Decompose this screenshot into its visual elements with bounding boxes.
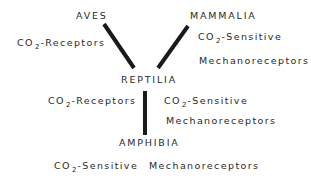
lineage-lines — [0, 0, 311, 179]
label-reptilia-mechanoreceptors: Mechanoreceptors — [166, 116, 276, 126]
node-aves: AVES — [76, 11, 108, 21]
node-reptilia: REPTILIA — [121, 75, 177, 85]
edge-aves-reptilia — [104, 24, 134, 68]
label-aves-co2-receptors: CO2-Receptors — [17, 38, 105, 51]
node-amphibia: AMPHIBIA — [119, 138, 180, 148]
edge-mammalia-reptilia — [158, 26, 188, 68]
label-mammalia-co2-sensitive: CO2-Sensitive — [198, 32, 282, 45]
node-mammalia: MAMMALIA — [190, 11, 257, 21]
label-reptilia-co2-sensitive: CO2-Sensitive — [164, 96, 248, 109]
label-amphibia-co2-sensitive: CO2-Sensitive — [54, 161, 138, 174]
label-reptilia-co2-receptors: CO2-Receptors — [48, 96, 136, 109]
label-amphibia-mechanoreceptors: Mechanoreceptors — [149, 161, 259, 171]
label-mammalia-mechanoreceptors: Mechanoreceptors — [199, 56, 309, 66]
